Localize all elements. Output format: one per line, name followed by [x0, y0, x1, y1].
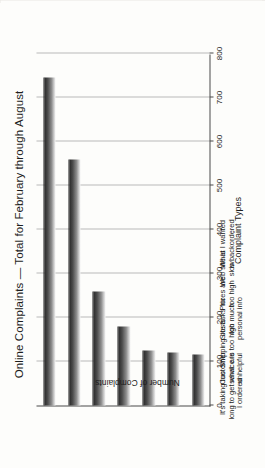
bar-row: [68, 54, 79, 405]
bar-row: [167, 54, 178, 405]
y-tick-mark: [209, 272, 213, 273]
bar: [117, 326, 129, 405]
bar-chart: Online Complaints — Total for February t…: [0, 0, 265, 468]
y-axis-title: Number of Complaints: [50, 377, 224, 387]
category-label-line: What I wanted: [218, 215, 227, 271]
bar: [43, 77, 55, 405]
scanned-page: Online Complaints — Total for February t…: [0, 0, 265, 468]
bar: [92, 291, 104, 405]
bar: [68, 159, 80, 405]
y-tick-mark: [209, 404, 213, 405]
bar-row: [92, 54, 103, 405]
y-tick-mark: [209, 228, 213, 229]
bar-row: [192, 54, 203, 405]
chart-title: Online Complaints — Total for February t…: [12, 0, 24, 468]
y-tick-mark: [209, 52, 213, 53]
rotated-figure-container: Online Complaints — Total for February t…: [0, 0, 265, 468]
y-tick-label: 500: [214, 178, 223, 191]
bar-row: [117, 54, 128, 405]
y-tick-mark: [209, 140, 213, 141]
y-tick-label: 800: [214, 46, 223, 59]
y-tick-mark: [209, 316, 213, 317]
bar-row: [142, 54, 153, 405]
y-tick-mark: [209, 360, 213, 361]
y-tick-mark: [209, 96, 213, 97]
y-tick-mark: [209, 184, 213, 185]
x-axis-title: Complaint Types: [232, 54, 242, 406]
y-tick-label: 700: [214, 90, 223, 103]
bar-row: [43, 54, 54, 405]
y-tick-label: 600: [214, 134, 223, 147]
gridline: [36, 52, 209, 53]
plot-area: 0100200300400500600700800 It's taking to…: [36, 54, 210, 406]
